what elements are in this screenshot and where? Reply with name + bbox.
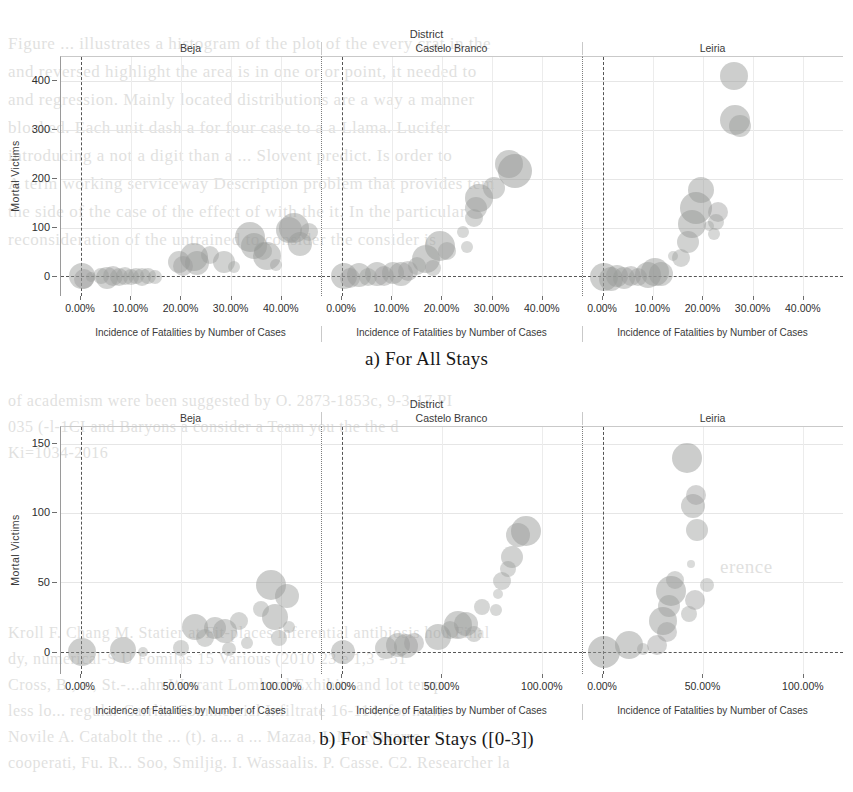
x-tick-mark: [231, 296, 232, 300]
gridline-horizontal: [322, 444, 582, 445]
gridline-vertical: [703, 427, 704, 674]
x-tick-mark: [492, 296, 493, 300]
x-tick-mark: [281, 674, 282, 678]
x-tick-label: 100.00%: [521, 680, 562, 692]
data-bubble: [666, 571, 684, 589]
data-bubble: [720, 62, 748, 90]
data-bubble: [686, 519, 708, 541]
panel-headers-a: Beja Castelo Branco Leiria: [60, 41, 843, 56]
gridline-horizontal: [61, 179, 321, 180]
data-bubble: [490, 604, 502, 616]
gridline-horizontal: [61, 444, 321, 445]
plot-row-a: Mortal Victims 0100200300400: [60, 56, 843, 296]
x-tick-label: 20.00%: [163, 302, 199, 314]
x-axis-ticks-row-a: 0.00%10.00%20.00%30.00%40.00% 0.00%10.00…: [60, 296, 843, 326]
panel-header-beja-a: Beja: [60, 41, 321, 56]
gridline-horizontal: [322, 513, 582, 514]
x-tick-label: 20.00%: [424, 302, 460, 314]
data-bubble: [230, 612, 248, 630]
plot-area-castelo-branco-a: [321, 56, 582, 296]
data-bubble: [331, 640, 355, 664]
panel-header-leiria-b: Leiria: [582, 411, 843, 426]
x-tick-label: 100.00%: [260, 680, 301, 692]
x-tick-mark: [753, 296, 754, 300]
gridline-vertical: [542, 57, 543, 296]
y-tick-label: 0: [44, 270, 50, 282]
data-bubble: [700, 578, 714, 592]
y-tick-label: 200: [32, 172, 50, 184]
gridline-vertical: [181, 427, 182, 674]
data-bubble: [649, 262, 673, 286]
plot-area-leiria-b: [582, 426, 843, 674]
x-tick-label: 30.00%: [474, 302, 510, 314]
data-bubble: [68, 638, 96, 666]
gridline-vertical: [542, 427, 543, 674]
data-bubble: [685, 590, 705, 610]
data-bubble: [228, 261, 240, 273]
data-bubble: [425, 260, 441, 276]
x-tick-label: 0.00%: [65, 680, 95, 692]
gridline-horizontal: [322, 179, 582, 180]
x-tick-label: 20.00%: [685, 302, 721, 314]
x-tick-mark: [281, 296, 282, 300]
x-tick-label: 50.00%: [424, 680, 460, 692]
y-axis-ticks-b: 050100150: [14, 426, 58, 674]
data-bubble: [275, 584, 299, 608]
y-tick-label: 50: [38, 576, 50, 588]
figure-caption-b: b) For Shorter Stays ([0-3]): [0, 728, 853, 750]
x-tick-label: 40.00%: [263, 302, 299, 314]
data-bubble: [466, 626, 482, 642]
y-tick-label: 150: [32, 437, 50, 449]
data-bubble: [270, 259, 282, 271]
y-tick-label: 100: [32, 221, 50, 233]
gridline-vertical: [281, 57, 282, 296]
y-tick-label: 400: [32, 74, 50, 86]
x-tick-label: 10.00%: [634, 302, 670, 314]
panel-headers-b: Beja Castelo Branco Leiria: [60, 411, 843, 426]
panel-header-beja-b: Beja: [60, 411, 321, 426]
y-tick-label: 100: [32, 506, 50, 518]
data-bubble: [404, 633, 424, 653]
data-bubble: [110, 637, 136, 663]
data-bubble: [438, 242, 456, 260]
x-tick-label: 0.00%: [587, 302, 617, 314]
y-axis-ticks-a: 0100200300400: [14, 56, 58, 296]
x-axis-ticks-castelo-branco-b: 0.00%50.00%100.00%: [321, 674, 582, 704]
data-bubble: [457, 226, 469, 238]
data-bubble: [300, 223, 318, 241]
data-bubble: [687, 560, 695, 568]
x-zero-axis: [81, 57, 82, 296]
x-axis-title-beja-b: Incidence of Fatalities by Number of Cas…: [60, 704, 321, 718]
x-tick-label: 40.00%: [524, 302, 560, 314]
gridline-horizontal: [61, 130, 321, 131]
gridline-vertical: [131, 57, 132, 296]
plot-row-b: Mortal Victims 050100150: [60, 426, 843, 674]
data-bubble: [461, 241, 473, 253]
gridline-horizontal: [583, 179, 843, 180]
gridline-horizontal: [583, 130, 843, 131]
x-tick-mark: [80, 674, 81, 678]
x-axis-title-beja-a: Incidence of Fatalities by Number of Cas…: [60, 326, 321, 340]
data-bubble: [688, 177, 714, 203]
plot-area-beja-b: [60, 426, 321, 674]
x-tick-label: 0.00%: [65, 302, 95, 314]
x-tick-mark: [341, 296, 342, 300]
data-bubble: [498, 154, 532, 188]
x-tick-mark: [80, 296, 81, 300]
panel-header-castelo-branco-b: Castelo Branco: [321, 411, 582, 426]
x-tick-mark: [602, 674, 603, 678]
gridline-horizontal: [322, 582, 582, 583]
data-bubble: [271, 630, 287, 646]
x-tick-mark: [441, 296, 442, 300]
x-tick-mark: [702, 296, 703, 300]
x-tick-label: 0.00%: [326, 680, 356, 692]
data-bubble: [501, 546, 523, 568]
panel-header-castelo-branco-a: Castelo Branco: [321, 41, 582, 56]
x-tick-mark: [441, 674, 442, 678]
figure-page: District Beja Castelo Branco Leiria Mort…: [0, 0, 853, 792]
gridline-horizontal: [322, 130, 582, 131]
data-bubble: [241, 637, 253, 649]
data-bubble: [672, 443, 702, 473]
gridline-horizontal: [61, 81, 321, 82]
x-tick-label: 30.00%: [213, 302, 249, 314]
